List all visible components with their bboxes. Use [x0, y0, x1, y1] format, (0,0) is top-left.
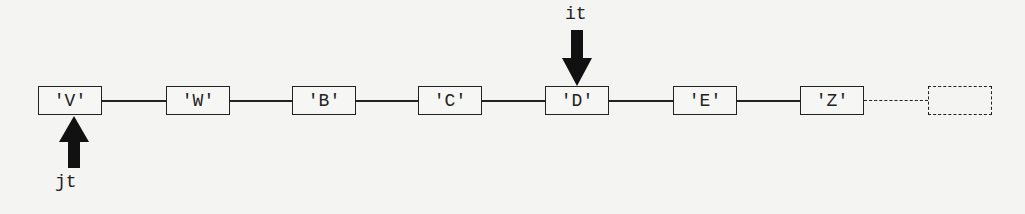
down-arrow-icon — [561, 30, 593, 86]
up-arrow-icon — [58, 116, 90, 168]
list-node-w: 'W' — [166, 86, 230, 115]
list-node-z: 'Z' — [800, 86, 864, 115]
list-node-c: 'C' — [418, 86, 482, 115]
link — [230, 100, 292, 102]
link — [609, 100, 673, 102]
placeholder-node — [928, 86, 992, 115]
link — [482, 100, 545, 102]
pointer-label-it: it — [565, 4, 587, 24]
link — [737, 100, 800, 102]
list-node-v: 'V' — [38, 86, 102, 115]
link — [102, 100, 166, 102]
list-node-e: 'E' — [673, 86, 737, 115]
pointer-label-jt: jt — [55, 172, 77, 192]
list-node-d: 'D' — [545, 86, 609, 115]
link — [356, 100, 418, 102]
dashed-link — [864, 100, 928, 101]
list-node-b: 'B' — [292, 86, 356, 115]
